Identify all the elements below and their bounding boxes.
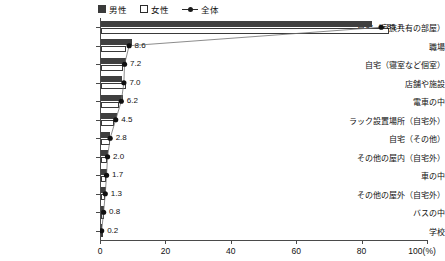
bar-female: [101, 102, 119, 108]
open-square-icon: [140, 5, 148, 13]
y-axis-tick: [96, 138, 100, 139]
y-axis-tick: [96, 231, 100, 232]
legend-item-male: 男性: [98, 3, 127, 15]
bar-chart: 男性 女性 全体 自宅（家族共有の部屋）職場自宅（寝室など個室）店舗や施設電車の…: [0, 0, 445, 261]
total-series-line: [100, 18, 427, 240]
x-axis-tick-label: 0: [98, 246, 103, 256]
x-axis-tick: [231, 240, 232, 244]
chart-legend: 男性 女性 全体: [98, 2, 219, 16]
bar-male: [101, 95, 123, 101]
bar-female: [101, 65, 123, 71]
bar-male: [101, 150, 108, 156]
bar-female: [101, 83, 126, 89]
y-axis-tick: [96, 175, 100, 176]
bar-female: [101, 194, 105, 200]
data-label: 0.8: [109, 207, 120, 216]
x-axis-tick: [100, 240, 101, 244]
data-label: 1.3: [111, 189, 122, 198]
data-label: 7.2: [130, 59, 141, 68]
data-label: 2.8: [116, 133, 127, 142]
x-axis-tick: [362, 240, 363, 244]
bar-male: [101, 206, 104, 212]
bar-male: [101, 113, 117, 119]
x-axis-tick-label: 100(%): [408, 246, 435, 256]
y-axis-tick: [96, 83, 100, 84]
y-axis-tick: [96, 64, 100, 65]
legend-item-female: 女性: [140, 3, 169, 15]
bar-male: [101, 58, 126, 64]
legend-label-total: 全体: [201, 3, 219, 15]
bar-female: [101, 231, 103, 237]
y-axis-tick: [96, 101, 100, 102]
data-label: 1.7: [112, 170, 123, 179]
filled-square-icon: [98, 5, 106, 13]
bar-female: [101, 139, 110, 145]
bar-female: [101, 176, 106, 182]
y-axis-tick: [96, 46, 100, 47]
x-axis-tick: [165, 240, 166, 244]
y-axis-tick: [96, 157, 100, 158]
plot-area: 85.78.67.27.06.24.52.82.01.71.30.80.2: [100, 18, 427, 240]
bar-male: [101, 187, 106, 193]
x-axis-tick-label: 20: [161, 246, 170, 256]
bar-female: [101, 120, 114, 126]
legend-item-total: 全体: [182, 3, 219, 15]
y-axis-tick: [96, 194, 100, 195]
bar-male: [101, 132, 110, 138]
y-axis-tick: [96, 120, 100, 121]
data-label: 2.0: [113, 152, 124, 161]
x-axis-tick-label: 40: [226, 246, 235, 256]
bar-female: [101, 28, 389, 34]
data-label: 7.0: [129, 78, 140, 87]
bar-male: [101, 76, 122, 82]
bar-female: [101, 157, 107, 163]
data-label: 85.7: [387, 22, 403, 31]
data-label: 0.2: [107, 226, 118, 235]
bar-male: [101, 39, 132, 45]
bar-male: [101, 224, 102, 230]
line-dot-icon: [182, 5, 198, 13]
x-axis-tick: [427, 240, 428, 244]
bar-male: [101, 21, 372, 27]
legend-label-female: 女性: [151, 3, 169, 15]
data-label: 6.2: [127, 96, 138, 105]
bar-female: [101, 213, 104, 219]
bar-female: [101, 46, 126, 52]
x-axis-tick-label: 80: [357, 246, 366, 256]
y-axis-tick: [96, 212, 100, 213]
x-axis-ticks: 020406080100(%): [100, 240, 440, 261]
x-axis-tick-label: 60: [291, 246, 300, 256]
data-label: 4.5: [121, 115, 132, 124]
y-axis-tick: [96, 27, 100, 28]
legend-label-male: 男性: [109, 3, 127, 15]
data-label: 8.6: [135, 41, 146, 50]
x-axis-tick: [296, 240, 297, 244]
bar-male: [101, 169, 107, 175]
